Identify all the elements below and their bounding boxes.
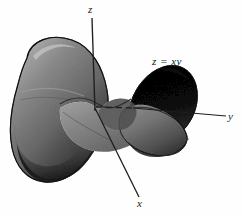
axis-label-x: x	[137, 198, 142, 209]
surface-plot-figure: z y x z = xy	[0, 0, 244, 217]
axis-label-z: z	[88, 4, 92, 15]
axis-label-y: y	[228, 111, 233, 122]
surface-equation-label: z = xy	[152, 56, 182, 67]
surface-plot-canvas	[0, 0, 244, 217]
